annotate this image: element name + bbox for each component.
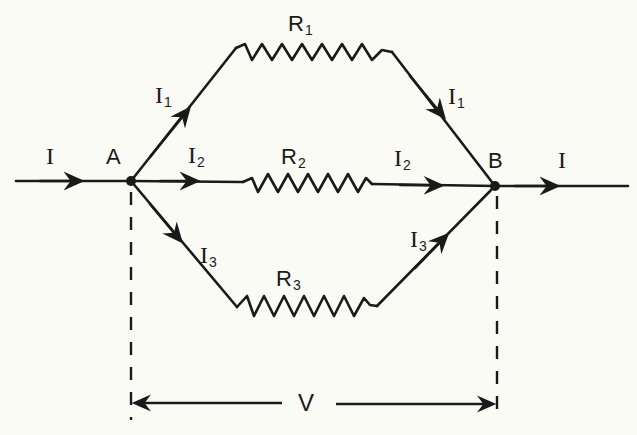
- label-i2-left: I2: [188, 143, 205, 169]
- node-a-dot: [126, 176, 136, 186]
- label-voltage: V: [298, 391, 314, 415]
- node-b-dot: [490, 181, 500, 191]
- branch-middle: [131, 174, 495, 192]
- label-r1: R1: [288, 13, 313, 37]
- label-r2: R2: [281, 146, 306, 170]
- label-i2-right: I2: [394, 146, 411, 172]
- label-current-in: I: [46, 144, 54, 168]
- resistor-r2: [243, 174, 372, 192]
- label-node-b: B: [488, 150, 503, 172]
- circuit-diagram: [0, 0, 637, 435]
- resistor-r1: [236, 44, 392, 60]
- label-i1-left: I1: [155, 83, 172, 109]
- label-current-out: I: [558, 148, 566, 172]
- resistor-r3: [237, 296, 377, 316]
- label-i3-right: I3: [410, 227, 427, 253]
- branch-bottom: [131, 181, 495, 316]
- label-r3: R3: [276, 268, 301, 292]
- branch-top: [131, 44, 495, 186]
- label-node-a: A: [106, 146, 121, 168]
- label-i3-left: I3: [200, 243, 217, 269]
- label-i1-right: I1: [448, 84, 465, 110]
